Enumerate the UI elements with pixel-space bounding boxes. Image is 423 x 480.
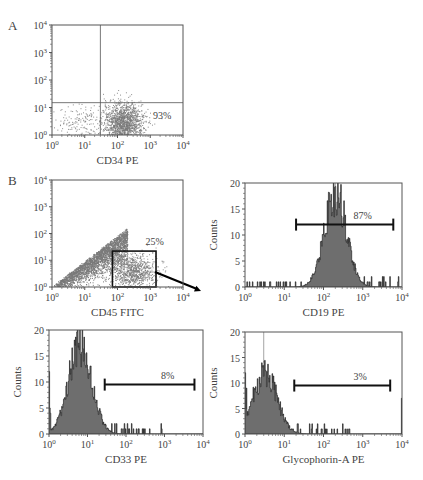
tick-label: 101 — [81, 438, 95, 450]
marker-percentage: 3% — [354, 371, 367, 382]
x-axis-label: CD45 FITC — [91, 306, 144, 318]
tick-label: 103 — [158, 438, 172, 450]
tick-label: 100 — [45, 139, 59, 151]
panel-label-a: A — [8, 18, 18, 33]
tick-label: 102 — [111, 139, 125, 151]
plot-area — [245, 183, 402, 287]
x-axis-label: Glycophorin-A PE — [282, 453, 364, 465]
quadrant-percentage: 93% — [153, 110, 171, 121]
tick-label: 0 — [39, 429, 44, 440]
tick-label: 101 — [34, 102, 48, 114]
tick-label: 104 — [395, 438, 409, 450]
plot-b3: 8%Counts10010110210310405101520CD33 PE — [11, 325, 210, 465]
plot-area — [46, 90, 163, 136]
plot-area — [245, 332, 402, 434]
plot-a: 93%100101102103104100101102103104CD34 PE — [34, 19, 191, 166]
tick-label: 10 — [230, 378, 240, 389]
plot-b2: 87%Counts10010110210310405101520CD19 PE — [207, 178, 409, 318]
marker-percentage: 8% — [161, 370, 174, 381]
y-axis-label: Counts — [11, 366, 23, 397]
tick-label: 100 — [42, 438, 56, 450]
panel-label-b: B — [8, 173, 17, 188]
tick-label: 104 — [395, 291, 409, 303]
plots: 93%100101102103104100101102103104CD34 PE… — [11, 19, 409, 465]
tick-label: 0 — [235, 282, 240, 293]
gate-arrow — [155, 272, 197, 289]
y-axis-label: Counts — [207, 367, 219, 398]
tick-label: 15 — [34, 351, 44, 362]
tick-label: 5 — [39, 403, 44, 414]
tick-label: 101 — [78, 291, 92, 303]
histogram-bars — [245, 183, 402, 287]
tick-label: 100 — [45, 291, 59, 303]
tick-label: 102 — [317, 438, 331, 450]
x-axis-label: CD19 PE — [303, 306, 345, 318]
tick-label: 102 — [317, 291, 331, 303]
tick-label: 104 — [196, 438, 210, 450]
tick-label: 101 — [78, 139, 92, 151]
plot-b4: 3%Counts10010110210310405101520Glycophor… — [207, 327, 409, 465]
tick-label: 102 — [119, 438, 133, 450]
tick-label: 5 — [235, 404, 240, 415]
tick-label: 102 — [34, 74, 48, 86]
tick-label: 20 — [230, 327, 240, 338]
y-axis-label: Counts — [207, 219, 219, 250]
tick-label: 104 — [34, 19, 48, 31]
tick-label: 101 — [278, 438, 292, 450]
tick-label: 102 — [111, 291, 125, 303]
tick-label: 15 — [230, 204, 240, 215]
tick-label: 100 — [238, 291, 252, 303]
plot-frame — [52, 180, 183, 287]
tick-label: 101 — [34, 254, 48, 266]
histogram-bars — [49, 330, 203, 434]
tick-label: 103 — [356, 291, 370, 303]
marker-percentage: 87% — [354, 210, 372, 221]
tick-label: 10 — [230, 230, 240, 241]
tick-label: 15 — [230, 353, 240, 364]
tick-label: 103 — [144, 291, 158, 303]
tick-label: 5 — [235, 256, 240, 267]
tick-label: 20 — [34, 325, 44, 336]
x-axis-label: CD33 PE — [105, 453, 147, 465]
tick-label: 103 — [144, 139, 158, 151]
tick-label: 103 — [356, 438, 370, 450]
tick-label: 102 — [34, 228, 48, 240]
tick-label: 103 — [34, 47, 48, 59]
tick-label: 103 — [34, 201, 48, 213]
plot-b1: 25%100101102103104100101102103104CD45 FI… — [34, 174, 202, 318]
gate-percentage: 25% — [145, 236, 163, 247]
flow-cytometry-figure: A B 93%100101102103104100101102103104CD3… — [0, 0, 423, 480]
tick-label: 104 — [34, 174, 48, 186]
tick-label: 104 — [176, 291, 190, 303]
plot-area — [49, 330, 203, 434]
x-axis-label: CD34 PE — [97, 154, 139, 166]
histogram-bars — [245, 360, 402, 434]
tick-label: 101 — [278, 291, 292, 303]
tick-label: 0 — [235, 429, 240, 440]
tick-label: 20 — [230, 178, 240, 189]
tick-label: 100 — [238, 438, 252, 450]
tick-label: 10 — [34, 377, 44, 388]
tick-label: 104 — [176, 139, 190, 151]
